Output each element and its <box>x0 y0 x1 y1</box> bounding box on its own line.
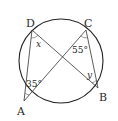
point-label-D: D <box>26 17 35 30</box>
angle-arc-B <box>92 80 96 83</box>
point-label-C: C <box>84 17 92 30</box>
angle-label-y: y <box>86 70 93 80</box>
angle-label-C: 55° <box>72 45 88 55</box>
point-label-B: B <box>99 91 107 104</box>
angle-arc-D <box>31 35 38 38</box>
angle-label-x: x <box>36 39 41 49</box>
angle-label-A: 35° <box>26 79 42 89</box>
segment-CA <box>24 30 86 101</box>
angle-arc-A <box>25 93 29 95</box>
diagram-canvas: D C A B x 55° 35° y <box>0 0 118 121</box>
circle-diagram: D C A B x 55° 35° y <box>0 0 118 121</box>
point-label-A: A <box>16 105 26 118</box>
angle-arc-C <box>81 36 88 38</box>
